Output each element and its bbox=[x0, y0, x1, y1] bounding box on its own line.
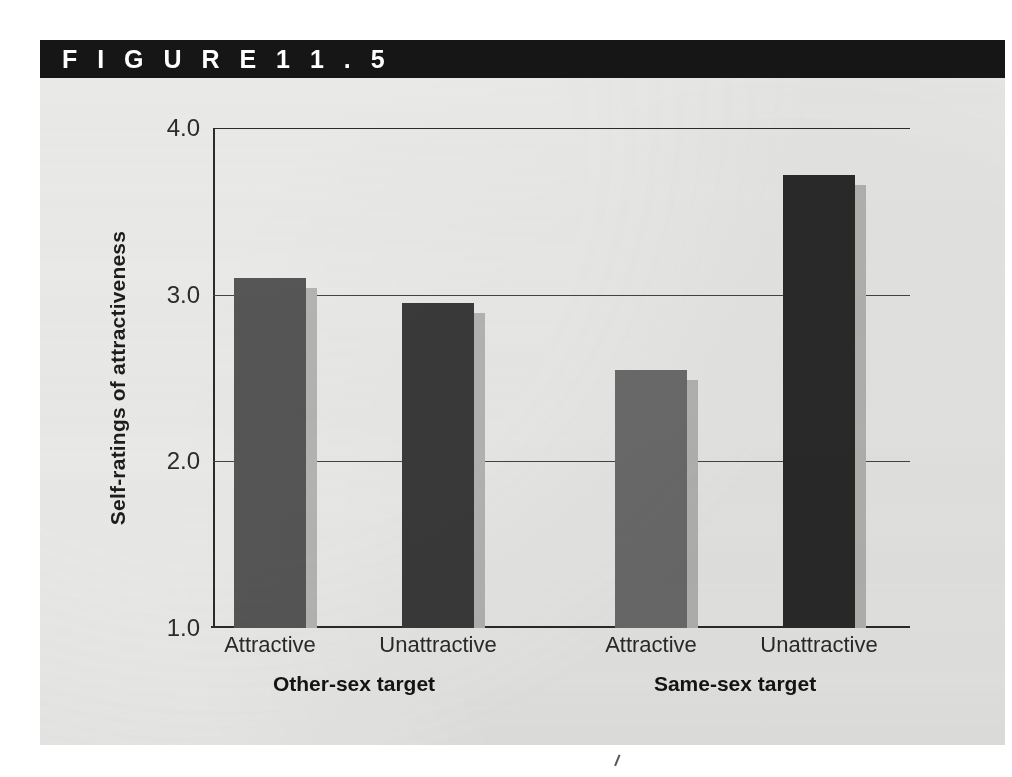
y-tick-label: 4.0 bbox=[167, 114, 200, 142]
y-axis-title-label: Self-ratings of attractiveness bbox=[106, 231, 130, 525]
y-tick-label: 2.0 bbox=[167, 447, 200, 475]
group-label: Same-sex target bbox=[654, 672, 816, 696]
plot-area: 1.02.03.04.0 bbox=[213, 128, 910, 628]
bar-attractive-2[interactable] bbox=[615, 370, 687, 628]
figure-panel: Self-ratings of attractiveness 1.02.03.0… bbox=[40, 40, 1005, 745]
bar-attractive-0[interactable] bbox=[234, 278, 306, 628]
figure-header-bar: F I G U R E 1 1 . 5 bbox=[40, 40, 1005, 78]
bar-chart: Self-ratings of attractiveness 1.02.03.0… bbox=[40, 40, 1005, 745]
y-tick-label: 3.0 bbox=[167, 281, 200, 309]
stray-pen-mark bbox=[614, 754, 629, 769]
group-label: Other-sex target bbox=[273, 672, 435, 696]
x-tick-label: Attractive bbox=[224, 632, 316, 658]
bar-unattractive-1[interactable] bbox=[402, 303, 474, 628]
bar-shadow bbox=[474, 313, 485, 628]
x-tick-label: Attractive bbox=[605, 632, 697, 658]
bar-unattractive-3[interactable] bbox=[783, 175, 855, 628]
y-axis-line bbox=[213, 128, 215, 628]
x-tick-label: Unattractive bbox=[760, 632, 877, 658]
figure-number-label: F I G U R E 1 1 . 5 bbox=[62, 45, 391, 74]
bar-shadow bbox=[855, 185, 866, 628]
bar-shadow bbox=[687, 380, 698, 628]
x-tick-label: Unattractive bbox=[379, 632, 496, 658]
bar-shadow bbox=[306, 288, 317, 628]
y-axis-title: Self-ratings of attractiveness bbox=[103, 128, 133, 628]
y-tick-label: 1.0 bbox=[167, 614, 200, 642]
gridline-4.0 bbox=[213, 128, 910, 129]
